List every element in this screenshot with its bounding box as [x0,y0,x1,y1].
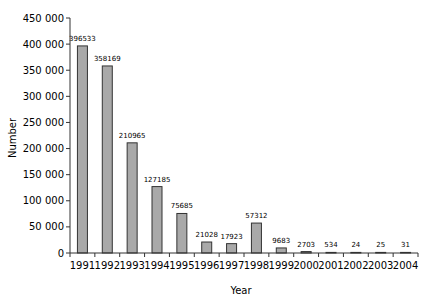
y-tick-label: 400 000 [23,39,64,50]
x-tick-label: 1994 [144,260,169,271]
y-tick-label: 250 000 [23,117,64,128]
bar-1998 [251,223,261,253]
x-tick-label: 2001 [318,260,343,271]
y-tick-label: 350 000 [23,65,64,76]
x-tick-label: 2000 [293,260,318,271]
y-tick-label: 300 000 [23,91,64,102]
x-tick-label: 1993 [119,260,144,271]
data-label: 358169 [94,55,121,63]
y-tick-label: 50 000 [29,221,64,232]
data-label: 17923 [220,233,242,241]
bar-1991 [77,46,87,253]
data-label: 31 [401,241,410,249]
bar-1992 [102,66,112,253]
y-axis-label: Number [7,117,18,158]
bar-1999 [276,248,286,253]
x-tick-label: 2004 [393,260,418,271]
data-label: 57312 [245,212,267,220]
y-tick-label: 100 000 [23,195,64,206]
x-tick-label: 1998 [244,260,269,271]
x-tick-label: 2002 [343,260,368,271]
bar-1993 [127,143,137,253]
x-tick-label: 2003 [368,260,393,271]
y-tick-label: 200 000 [23,143,64,154]
x-tick-label: 1996 [194,260,219,271]
data-label: 9683 [272,237,290,245]
x-axis-label: Year [229,285,252,296]
bar-1995 [177,213,187,253]
data-label: 2703 [297,241,315,249]
data-label: 127185 [144,176,171,184]
x-tick-label: 1995 [169,260,194,271]
y-tick-label: 150 000 [23,169,64,180]
data-label: 534 [324,241,338,249]
bar-1996 [202,242,212,253]
data-label: 21028 [196,231,218,239]
x-tick-label: 1992 [95,260,120,271]
bar-1994 [152,187,162,253]
y-axis-ticks: 050 000100 000150 000200 000250 000300 0… [23,13,70,259]
bars: 3965331991358169199221096519931271851994… [69,35,418,271]
data-label: 25 [376,241,385,249]
bar-chart: 050 000100 000150 000200 000250 000300 0… [0,0,427,301]
y-tick-label: 0 [58,248,64,259]
data-label: 75685 [171,202,193,210]
data-label: 210965 [119,132,146,140]
data-label: 396533 [69,35,96,43]
bar-1997 [227,244,237,253]
x-tick-label: 1997 [219,260,244,271]
x-tick-label: 1991 [70,260,95,271]
data-label: 24 [351,241,360,249]
x-tick-label: 1999 [269,260,294,271]
y-tick-label: 450 000 [23,13,64,24]
